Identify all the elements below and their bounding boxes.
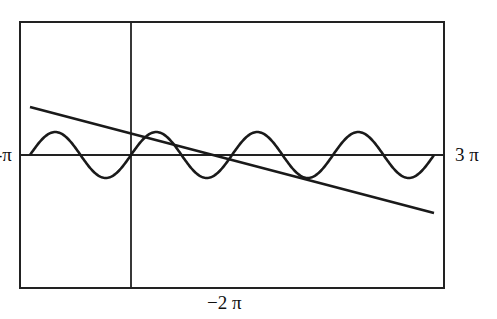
right-tick-label: 3 π [455,144,479,166]
left-tick-label: -π [0,144,12,166]
bottom-tick-label: −2 π [207,292,242,314]
plot-area [0,0,497,319]
straight-line [30,107,434,213]
